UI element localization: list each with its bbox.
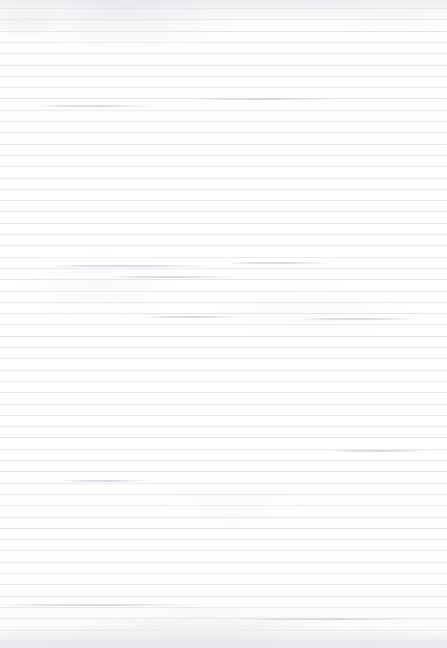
top-edge-scan-band (0, 0, 447, 10)
scanned-paper-page (0, 0, 447, 648)
bottom-edge-scan-band (0, 632, 447, 648)
paper-grain-texture (0, 0, 447, 648)
